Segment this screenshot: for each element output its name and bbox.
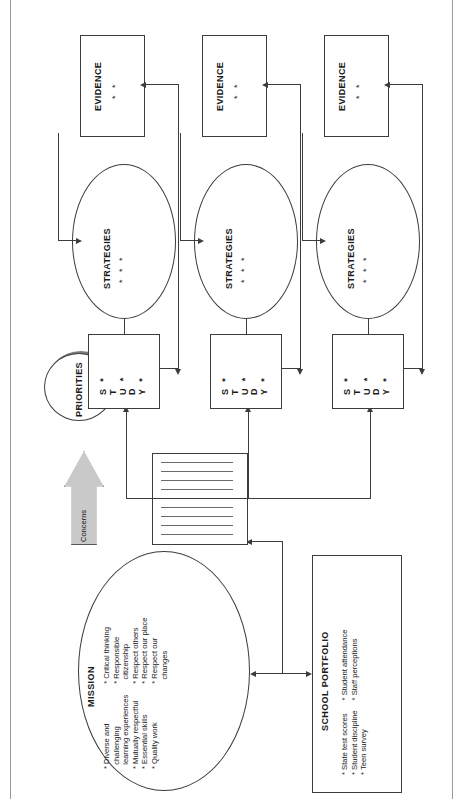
mission-portfolio-arrowhead-down — [306, 672, 312, 678]
evidence-label-row-1: EVIDENCE — [93, 62, 103, 111]
evidence-feedback-arrowhead-row-1 — [140, 83, 146, 89]
strategies-to-evidence-arrowhead-row-1 — [76, 239, 82, 245]
mission-label: MISSION — [86, 666, 96, 707]
concerns-rule — [161, 480, 233, 481]
evidence-to-study-feedback-row-3 — [422, 84, 423, 369]
evidence-label-row-2: EVIDENCE — [215, 62, 225, 111]
concerns-bus-drop-3 — [248, 498, 371, 499]
study-bullet: * — [260, 378, 270, 382]
strategies-to-evidence-riser-row-1 — [58, 240, 78, 241]
study-letter: Y — [260, 389, 270, 395]
study-letters-row-3: S* T U* D Y* — [343, 377, 392, 395]
concerns-rule — [161, 507, 233, 508]
concerns-rule — [161, 525, 233, 526]
study-to-strategies-connector-row-2 — [246, 318, 247, 334]
mission-portfolio-arrowhead-up — [250, 672, 256, 678]
evidence-to-study-feedback-row-2 — [300, 84, 301, 369]
concerns-rule — [161, 462, 233, 463]
strategies-oval-row-3[interactable] — [316, 164, 420, 319]
strategies-to-evidence-run-row-1 — [58, 133, 59, 241]
strategies-oval-row-2[interactable] — [194, 164, 298, 319]
strategies-bullets-row-3: * * * — [361, 257, 371, 283]
strategies-oval-row-1[interactable] — [72, 164, 176, 319]
concerns-rule — [161, 489, 233, 490]
evidence-to-study-arrowhead-row-2 — [297, 369, 303, 375]
study-letter-row: Y* — [138, 377, 148, 395]
strategies-to-evidence-run-row-3 — [302, 133, 303, 241]
strategies-to-evidence-arrowhead-row-3 — [320, 239, 326, 245]
study-bullet: * — [221, 378, 231, 382]
strategies-label-row-3: STRATEGIES — [346, 228, 356, 289]
study-to-strategies-connector-row-3 — [368, 318, 369, 334]
study-letter: Y — [382, 389, 392, 395]
concerns-bus-row-3 — [370, 411, 371, 499]
evidence-to-study-feedback-row-1 — [178, 84, 179, 369]
concerns-bus-row-2 — [248, 411, 249, 499]
study-bullet: * — [138, 378, 148, 382]
evidence-feedback-drop-row-2 — [267, 84, 301, 85]
mission-bullets-col-1: * Diverse and challenging learning exper… — [102, 695, 169, 769]
mission-bullets: * Diverse and challenging learning exper… — [102, 617, 169, 769]
portfolio-to-concerns-connector — [282, 541, 283, 674]
concerns-bus-row-1 — [126, 411, 127, 499]
school-portfolio-bullets: * State test scores * Student discipline… — [340, 629, 369, 775]
concerns-block-arrow[interactable]: Concerns — [64, 453, 102, 545]
study-letter: Y — [138, 389, 148, 395]
strategies-label-row-2: STRATEGIES — [224, 228, 234, 289]
strategies-bullets-row-1: * * * — [117, 257, 127, 283]
concerns-rule — [161, 534, 233, 535]
evidence-bullets-row-1: * * — [110, 84, 120, 99]
study-bullet: * — [343, 378, 353, 382]
study-letters-row-1: S* T U* D Y* — [99, 377, 148, 395]
evidence-feedback-arrowhead-row-2 — [262, 83, 268, 89]
evidence-to-study-arrowhead-row-3 — [419, 369, 425, 375]
portfolio-to-concerns-riser — [252, 541, 283, 542]
school-portfolio-bullets-col-1: * State test scores * Student discipline… — [340, 710, 369, 775]
study-to-strategies-connector-row-1 — [124, 318, 125, 334]
study-letter-row: Y* — [260, 377, 270, 395]
strategies-bullets-row-2: * * * — [239, 257, 249, 283]
study-box-row-3[interactable] — [332, 334, 404, 409]
study-bullet: * — [99, 378, 109, 382]
concerns-bus-drop-2 — [126, 498, 249, 499]
mission-bullets-col-2: * Critical thinking * Responsible citize… — [102, 617, 169, 683]
diagram-canvas: MISSION * Diverse and challenging learni… — [0, 0, 465, 799]
study-feedback-stub-row-2 — [282, 368, 301, 369]
school-portfolio-bullets-col-2: * Student attendance * Staff perceptions — [340, 629, 369, 700]
diagram-rotation-wrapper: MISSION * Diverse and challenging learni… — [0, 0, 465, 799]
evidence-label-row-3: EVIDENCE — [337, 62, 347, 111]
school-portfolio-label: SCHOOL PORTFOLIO — [320, 631, 330, 731]
strategies-to-evidence-riser-row-3 — [302, 240, 322, 241]
study-bullet: * — [119, 377, 129, 381]
study-box-row-2[interactable] — [210, 334, 282, 409]
strategies-label-row-1: STRATEGIES — [102, 228, 112, 289]
strategies-to-evidence-riser-row-2 — [180, 240, 200, 241]
strategies-to-evidence-arrowhead-row-2 — [198, 239, 204, 245]
study-box-row-1[interactable] — [88, 334, 160, 409]
concerns-list-box[interactable] — [152, 453, 248, 545]
evidence-to-study-arrowhead-row-1 — [175, 369, 181, 375]
evidence-feedback-drop-row-1 — [145, 84, 179, 85]
priorities-label: PRIORITIES — [74, 362, 84, 417]
concerns-arrow-label: Concerns — [64, 510, 102, 542]
study-letter-row: Y* — [382, 377, 392, 395]
evidence-bullets-row-2: * * — [232, 84, 242, 99]
study-feedback-stub-row-3 — [404, 368, 423, 369]
study-bullet: * — [363, 377, 373, 381]
strategies-to-evidence-run-row-2 — [180, 133, 181, 241]
study-bullet: * — [241, 377, 251, 381]
evidence-bullets-row-3: * * — [354, 84, 364, 99]
evidence-feedback-arrowhead-row-3 — [384, 83, 390, 89]
study-feedback-stub-row-1 — [160, 368, 179, 369]
concerns-rule — [161, 516, 233, 517]
study-bullet: * — [382, 378, 392, 382]
evidence-feedback-drop-row-3 — [389, 84, 423, 85]
study-letters-row-2: S* T U* D Y* — [221, 377, 270, 395]
concerns-rule — [161, 471, 233, 472]
